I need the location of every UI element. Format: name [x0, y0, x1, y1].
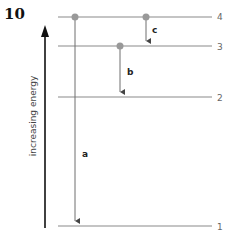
level-label: 3 — [217, 42, 223, 52]
level-label: 1 — [217, 222, 223, 232]
energy-level-3: 3 — [58, 42, 223, 52]
energy-level-1: 1 — [58, 222, 223, 232]
transition-c: c — [143, 14, 158, 42]
level-label: 4 — [217, 12, 223, 22]
energy-level-2: 2 — [58, 93, 223, 103]
axis-label: increasing energy — [28, 75, 38, 156]
energy-axis: increasing energy — [28, 25, 49, 228]
transition-b: b — [117, 43, 135, 93]
electron-dot-icon — [143, 14, 150, 21]
level-label: 2 — [217, 93, 223, 103]
transition-a: a — [72, 14, 89, 222]
electron-dot-icon — [117, 43, 124, 50]
transition-label: a — [82, 149, 88, 159]
electron-dot-icon — [72, 14, 79, 21]
transition-label: b — [127, 67, 134, 77]
axis-arrowhead-icon — [41, 25, 49, 37]
energy-level-4: 4 — [58, 12, 223, 22]
energy-level-diagram: increasing energy 4 3 2 1 a b c — [0, 0, 227, 235]
transition-label: c — [152, 25, 157, 35]
